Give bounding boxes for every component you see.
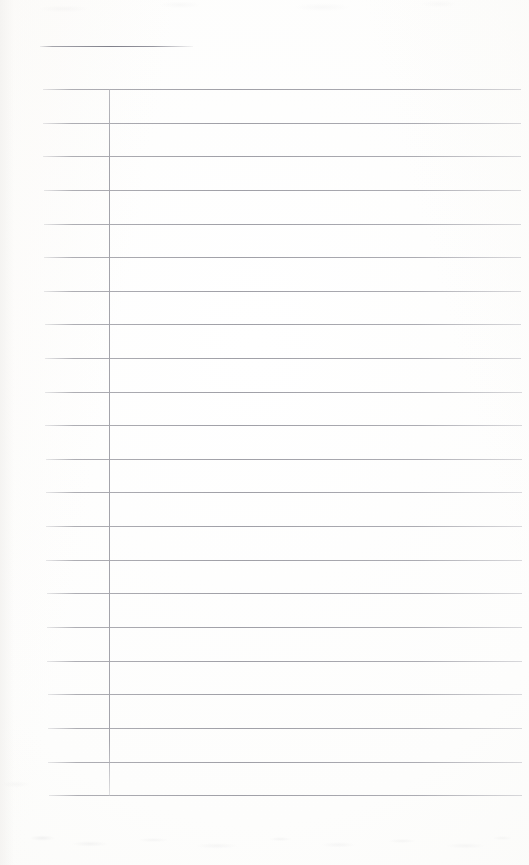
paper-background bbox=[0, 0, 529, 865]
scanned-page bbox=[0, 0, 529, 865]
